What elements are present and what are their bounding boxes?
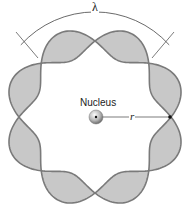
wave-lobe [95, 171, 149, 203]
wave-lobe [149, 63, 181, 117]
wave-lobe [41, 171, 95, 203]
wave-lobe [41, 31, 95, 63]
wave-lobe [149, 117, 181, 171]
wavelength-label: λ [91, 0, 99, 15]
wave-lobe [95, 31, 149, 63]
wavelength-arc [16, 12, 174, 58]
wave-lobe [9, 63, 41, 117]
radius-label: r [129, 110, 135, 122]
nucleus-label: Nucleus [80, 97, 116, 108]
wave-lobe [9, 117, 41, 171]
